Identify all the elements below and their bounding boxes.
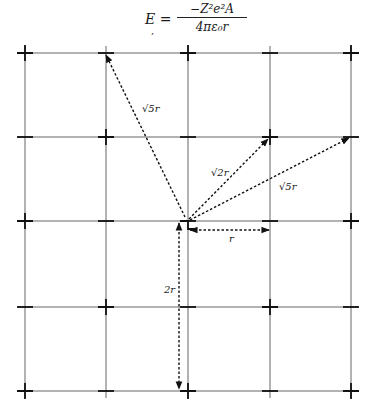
arrow-sqrt5r-upper-left [106,55,185,217]
label-sqrt2r: √2r [211,167,230,178]
arrow-sqrt2r [189,139,268,219]
origin-corner-mark [180,221,196,229]
label-r: r [229,233,235,244]
label-sqrt5r-upper: √5r [142,103,161,114]
lattice-diagram: √5r √2r √5r r 2r [0,0,375,415]
distance-labels: √5r √2r √5r r 2r [142,103,298,295]
label-sqrt5r-right: √5r [279,181,298,192]
label-2r: 2r [163,284,176,295]
arrow-sqrt5r-right [190,138,349,220]
